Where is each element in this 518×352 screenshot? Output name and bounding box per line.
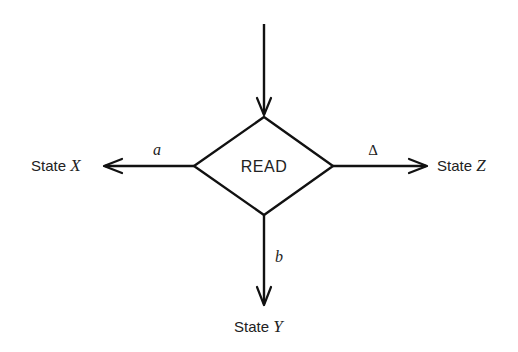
state-z-prefix: State	[437, 157, 476, 174]
read-node-label: READ	[241, 158, 287, 175]
arrow-to-state-x	[104, 159, 194, 173]
state-z-label: State Z	[437, 156, 486, 175]
state-z-var: Z	[476, 156, 486, 175]
arrow-to-state-z	[333, 159, 427, 173]
edge-label-b: b	[275, 248, 283, 265]
state-y-label: State Y	[234, 317, 284, 336]
state-y-var: Y	[273, 317, 284, 336]
state-x-prefix: State	[31, 157, 70, 174]
edge-label-a: a	[153, 141, 161, 158]
state-x-label: State X	[31, 156, 81, 175]
state-y-prefix: State	[234, 318, 273, 335]
arrow-to-state-y	[257, 215, 271, 305]
state-x-var: X	[69, 156, 81, 175]
entry-arrow	[257, 24, 271, 115]
state-transition-diagram: READ a Δ b State X State Z State Y	[0, 0, 518, 352]
edge-label-delta: Δ	[368, 142, 378, 158]
